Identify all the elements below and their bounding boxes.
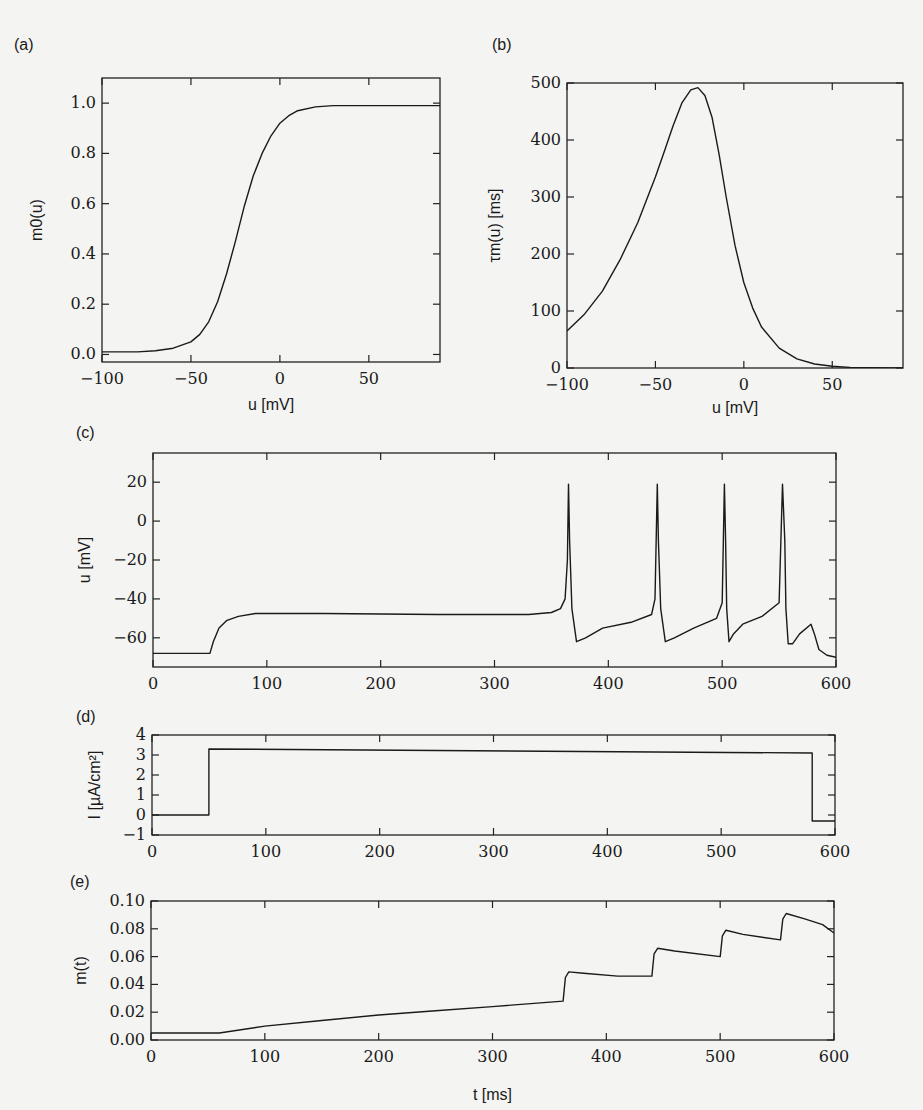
y-tick-label: 100: [530, 301, 561, 320]
panel-label: (b): [492, 36, 512, 53]
y-tick-label: 0.6: [71, 194, 96, 213]
data-line: [102, 106, 440, 352]
x-tick-label: 600: [819, 1047, 850, 1066]
x-tick-label: −100: [545, 375, 589, 394]
y-tick-label: 0: [551, 358, 561, 377]
plot-frame: [102, 78, 440, 362]
x-tick-label: −100: [80, 369, 124, 388]
data-line: [153, 484, 836, 657]
y-tick-label: 500: [530, 73, 561, 92]
x-tick-label: 500: [706, 842, 737, 861]
x-tick-label: 0: [147, 842, 157, 861]
x-tick-label: 50: [359, 369, 379, 388]
y-tick-label: 0: [136, 805, 146, 824]
y-axis-label: u [mV]: [76, 537, 93, 583]
y-tick-label: 0.04: [109, 974, 145, 993]
y-tick-label: −20: [113, 550, 147, 569]
y-tick-label: 0.08: [109, 919, 145, 938]
panel-a: (a)−100−500500.00.20.40.60.81.0m0(u)u [m…: [14, 36, 440, 413]
panel-label: (c): [76, 424, 95, 441]
x-tick-label: −50: [639, 375, 673, 394]
x-tick-label: 100: [250, 1047, 281, 1066]
y-tick-label: 0.8: [71, 143, 96, 162]
x-tick-label: 50: [822, 375, 842, 394]
panel-label: (e): [70, 873, 90, 890]
x-tick-label: 300: [478, 842, 509, 861]
y-tick-label: 0.00: [109, 1030, 145, 1049]
y-tick-label: −60: [113, 628, 147, 647]
y-tick-label: 0.4: [71, 244, 96, 263]
y-tick-label: 0.2: [71, 294, 96, 313]
plot-frame: [567, 83, 903, 368]
data-line: [151, 914, 834, 1034]
x-axis-label: u [mV]: [248, 396, 294, 413]
x-tick-label: 0: [275, 369, 285, 388]
x-tick-label: 300: [479, 674, 510, 693]
y-tick-label: 1.0: [71, 93, 96, 112]
panel-e: (e)01002003004005006000.000.020.040.060.…: [70, 873, 849, 1103]
y-tick-label: 0: [137, 511, 147, 530]
x-tick-label: 0: [148, 674, 158, 693]
y-tick-label: 400: [530, 130, 561, 149]
panel-b: (b)−100−500500100200300400500τm(u) [ms]u…: [486, 36, 903, 416]
panel-label: (a): [14, 36, 34, 53]
y-tick-label: 200: [530, 244, 561, 263]
y-tick-label: 4: [136, 725, 146, 744]
x-tick-label: 600: [820, 842, 851, 861]
panel-d: (d)0100200300400500600−101234I [µA/cm²]: [76, 708, 850, 861]
y-axis-label: m0(u): [28, 199, 45, 241]
x-tick-label: 400: [591, 1047, 622, 1066]
plot-frame: [151, 901, 834, 1040]
x-tick-label: 200: [365, 674, 396, 693]
x-tick-label: 300: [477, 1047, 508, 1066]
x-tick-label: 200: [364, 842, 395, 861]
x-tick-label: 500: [707, 674, 738, 693]
x-tick-label: −50: [174, 369, 208, 388]
y-tick-label: 20: [127, 472, 147, 491]
panel-label: (d): [76, 708, 96, 725]
y-tick-label: 1: [136, 785, 146, 804]
y-tick-label: 0.02: [109, 1002, 145, 1021]
y-tick-label: −40: [113, 589, 147, 608]
y-tick-label: 2: [136, 765, 146, 784]
y-tick-label: 0.06: [109, 947, 145, 966]
data-line: [567, 88, 903, 368]
x-tick-label: 500: [705, 1047, 736, 1066]
figure-canvas: (a)−100−500500.00.20.40.60.81.0m0(u)u [m…: [0, 0, 923, 1110]
y-tick-label: 300: [530, 187, 561, 206]
x-tick-label: 100: [251, 842, 282, 861]
y-axis-label: I [µA/cm²]: [86, 751, 103, 820]
y-tick-label: 0.0: [71, 344, 96, 363]
x-axis-label: u [mV]: [712, 399, 758, 416]
x-tick-label: 0: [739, 375, 749, 394]
y-axis-label: τm(u) [ms]: [486, 189, 503, 263]
x-axis-label: t [ms]: [473, 1086, 512, 1103]
x-tick-label: 400: [592, 842, 623, 861]
x-tick-label: 600: [821, 674, 852, 693]
x-tick-label: 0: [146, 1047, 156, 1066]
x-tick-label: 400: [593, 674, 624, 693]
y-axis-label: m(t): [72, 956, 89, 984]
y-tick-label: 0.10: [109, 891, 145, 910]
y-tick-label: −1: [122, 825, 146, 844]
panel-c: (c)0100200300400500600−60−40−20020u [mV]: [76, 424, 851, 693]
x-tick-label: 100: [252, 674, 283, 693]
y-tick-label: 3: [136, 745, 146, 764]
x-tick-label: 200: [363, 1047, 394, 1066]
data-line: [152, 749, 835, 821]
